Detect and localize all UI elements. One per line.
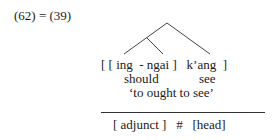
tree-branch-right: [167, 23, 210, 54]
divider-rule: [101, 112, 265, 113]
gloss-see: see: [199, 72, 216, 86]
morpheme-line: [ [ ing - ngai ] k’ang ]: [101, 58, 227, 72]
gloss-should: should: [124, 72, 159, 86]
translation: ‘to ought to see’: [129, 86, 214, 100]
tree-subbranch: [147, 38, 163, 54]
tree-branch-left: [124, 23, 167, 54]
structure-line: [ adjunct ] # [head]: [113, 118, 226, 132]
